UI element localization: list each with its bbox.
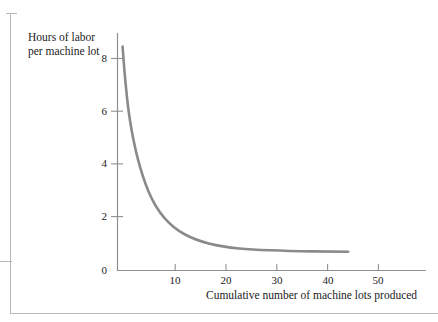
chart-page: Hours of labor per machine lot 8 6 4 2 0…: [0, 0, 438, 322]
x-axis-label: Cumulative number of machine lots produc…: [206, 288, 417, 302]
x-tick-label-40: 40: [318, 275, 338, 286]
x-tick-marks: [175, 264, 378, 271]
learning-curve-line: [123, 47, 349, 252]
x-tick-label-30: 30: [267, 275, 287, 286]
y-tick-label-4: 4: [93, 158, 107, 169]
y-tick-label-2: 2: [93, 211, 107, 222]
x-tick-label-10: 10: [165, 275, 185, 286]
x-tick-label-50: 50: [368, 275, 388, 286]
x-tick-label-20: 20: [216, 275, 236, 286]
y-tick-label-0: 0: [93, 265, 107, 276]
y-tick-label-8: 8: [93, 53, 107, 64]
y-axis-label: Hours of labor per machine lot: [28, 30, 124, 58]
y-tick-label-6: 6: [93, 106, 107, 117]
